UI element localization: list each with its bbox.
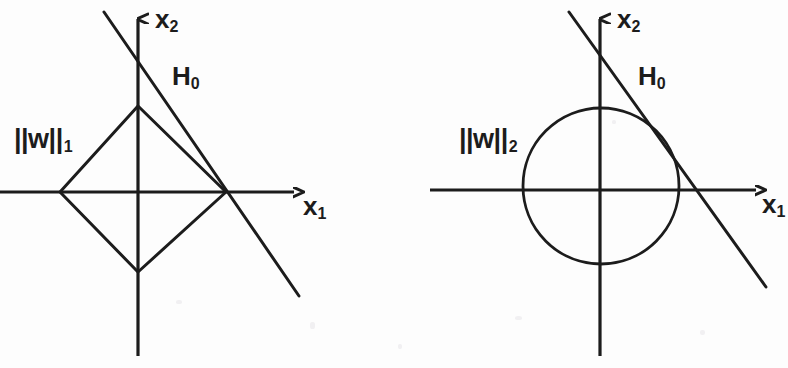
l1-norm-text: ||w|| [14, 124, 63, 154]
l1-x-axis-text: x [303, 191, 317, 221]
l2-hyperplane-subscript: 0 [657, 75, 666, 92]
l1-x-axis-subscript: 1 [317, 205, 326, 222]
figure-canvas [0, 0, 788, 368]
l2-norm-text: ||w|| [459, 124, 508, 154]
l2-y-axis-label: x2 [617, 6, 640, 35]
l1-norm-label: ||w||1 [14, 126, 72, 155]
l1-y-axis-subscript: 2 [169, 18, 178, 35]
l1-y-axis-text: x [155, 4, 169, 34]
l1-hyperplane-h0 [104, 12, 299, 296]
l1-norm-subscript: 1 [63, 138, 72, 155]
l2-x-axis-label: x1 [762, 191, 785, 220]
l2-y-axis-text: x [617, 4, 631, 34]
panel-l1 [0, 12, 299, 356]
l1-hyperplane-label: H0 [172, 63, 200, 92]
l2-x-axis-text: x [762, 189, 776, 219]
l1-y-axis-label: x2 [155, 6, 178, 35]
l1-norm-ball-diamond [60, 106, 226, 272]
l2-hyperplane-label: H0 [638, 63, 666, 92]
l1-x-axis-label: x1 [303, 193, 326, 222]
l1-hyperplane-text: H [172, 61, 191, 91]
l1-hyperplane-subscript: 0 [191, 75, 200, 92]
l2-x-axis-subscript: 1 [776, 203, 785, 220]
norm-ball-figure: ||w||1 H0 x2 x1 ||w||2 H0 x2 x1 [0, 0, 788, 368]
l2-hyperplane-text: H [638, 61, 657, 91]
l2-y-axis-subscript: 2 [631, 18, 640, 35]
panel-l2 [430, 12, 766, 356]
l2-norm-label: ||w||2 [459, 126, 517, 155]
l2-norm-subscript: 2 [508, 138, 517, 155]
